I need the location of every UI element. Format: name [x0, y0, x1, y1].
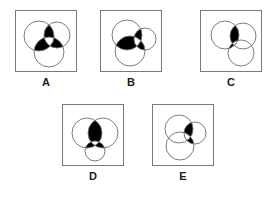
option-a-label: A — [42, 77, 50, 88]
option-b-label: B — [127, 77, 135, 88]
option-d-venn-diagram — [63, 105, 125, 167]
option-a-venn-diagram — [16, 11, 78, 73]
e-lower-left-circle — [166, 132, 194, 160]
option-c-venn-diagram — [201, 11, 263, 73]
option-e[interactable]: E — [152, 104, 214, 182]
option-e-label: E — [179, 171, 187, 182]
option-b[interactable]: B — [100, 10, 162, 88]
option-e-venn-diagram — [153, 105, 215, 167]
option-e-frame[interactable] — [152, 104, 214, 166]
option-a-frame[interactable] — [15, 10, 77, 72]
venn-puzzle-board: A — [0, 0, 277, 198]
option-d[interactable]: D — [62, 104, 124, 182]
option-d-frame[interactable] — [62, 104, 124, 166]
option-b-venn-diagram — [101, 11, 163, 73]
option-a[interactable]: A — [15, 10, 77, 88]
option-b-frame[interactable] — [100, 10, 162, 72]
option-d-label: D — [89, 171, 97, 182]
option-c[interactable]: C — [200, 10, 262, 88]
option-c-label: C — [227, 77, 235, 88]
option-c-frame[interactable] — [200, 10, 262, 72]
c-lower-right-circle — [228, 40, 254, 66]
